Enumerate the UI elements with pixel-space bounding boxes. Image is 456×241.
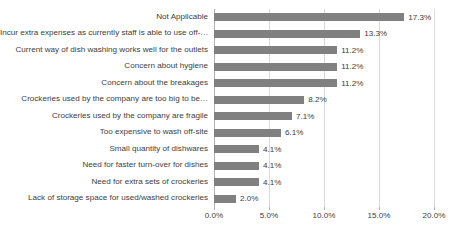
value-tick-label: 10.0% <box>313 211 336 220</box>
bar[interactable] <box>214 129 281 137</box>
bar[interactable] <box>214 145 259 153</box>
value-tick-mark <box>214 207 215 210</box>
bar-row[interactable]: 11.2% <box>214 75 434 92</box>
bar-data-label: 2.0% <box>240 194 258 203</box>
bar[interactable] <box>214 178 259 186</box>
bar-series: 17.3%13.3%11.2%11.2%11.2%8.2%7.1%6.1%4.1… <box>214 9 434 207</box>
category-label: Crockeries used by the company are fragi… <box>52 112 208 121</box>
bar-data-label: 4.1% <box>263 161 281 170</box>
value-tick-mark <box>379 207 380 210</box>
bar-chart: Not ApplicableIncur extra expenses as cu… <box>0 0 456 241</box>
bar-data-label: 11.2% <box>341 62 363 71</box>
bar[interactable] <box>214 63 337 71</box>
bar[interactable] <box>214 112 292 120</box>
bar-data-label: 11.2% <box>341 46 363 55</box>
category-label: Small quantity of dishwares <box>109 145 208 154</box>
value-tick-mark <box>434 207 435 210</box>
bar-data-label: 13.3% <box>364 29 387 38</box>
category-tick: Concern about hygiene <box>0 59 211 76</box>
category-tick: Small quantity of dishwares <box>0 141 211 158</box>
value-tick-label: 15.0% <box>368 211 391 220</box>
bar-row[interactable]: 13.3% <box>214 26 434 43</box>
bar[interactable] <box>214 162 259 170</box>
bar[interactable] <box>214 195 236 203</box>
category-tick: Current way of dish washing works well f… <box>0 42 211 59</box>
bar-row[interactable]: 8.2% <box>214 92 434 109</box>
category-label: Concern about the breakages <box>101 79 208 88</box>
bar-data-label: 8.2% <box>308 95 326 104</box>
category-tick: Lack of storage space for used/washed cr… <box>0 191 211 208</box>
category-tick: Need for extra sets of crockeries <box>0 174 211 191</box>
value-tick-mark <box>324 207 325 210</box>
category-tick: Too expensive to wash off-site <box>0 125 211 142</box>
category-label: Current way of dish washing works well f… <box>15 46 208 55</box>
gridline <box>434 9 435 207</box>
bar-row[interactable]: 6.1% <box>214 125 434 142</box>
bar-row[interactable]: 17.3% <box>214 9 434 26</box>
bar-row[interactable]: 2.0% <box>214 191 434 208</box>
bar[interactable] <box>214 96 304 104</box>
category-label: Not Applicable <box>156 13 208 22</box>
bar-row[interactable]: 11.2% <box>214 42 434 59</box>
bar-data-label: 4.1% <box>263 145 281 154</box>
bar-row[interactable]: 11.2% <box>214 59 434 76</box>
bar[interactable] <box>214 13 404 21</box>
category-tick: Incur extra expenses as currently staff … <box>0 26 211 43</box>
category-label: Need for faster turn-over for dishes <box>82 161 208 170</box>
value-tick-label: 0.0% <box>205 211 223 220</box>
bar[interactable] <box>214 46 337 54</box>
value-tick-label: 5.0% <box>260 211 278 220</box>
category-tick: Crockeries used by the company are too b… <box>0 92 211 109</box>
bar-data-label: 11.2% <box>341 79 363 88</box>
bar-row[interactable]: 4.1% <box>214 141 434 158</box>
bar-data-label: 7.1% <box>296 112 314 121</box>
category-label: Incur extra expenses as currently staff … <box>0 29 208 38</box>
category-label: Too expensive to wash off-site <box>100 128 208 137</box>
category-label: Need for extra sets of crockeries <box>91 178 208 187</box>
bar-row[interactable]: 7.1% <box>214 108 434 125</box>
category-tick: Concern about the breakages <box>0 75 211 92</box>
category-label: Concern about hygiene <box>124 62 208 71</box>
bar-data-label: 4.1% <box>263 178 281 187</box>
bar-data-label: 6.1% <box>285 128 303 137</box>
category-axis: Not ApplicableIncur extra expenses as cu… <box>0 9 211 207</box>
bar-row[interactable]: 4.1% <box>214 158 434 175</box>
bar-data-label: 17.3% <box>408 13 431 22</box>
bar-row[interactable]: 4.1% <box>214 174 434 191</box>
value-tick-mark <box>269 207 270 210</box>
category-tick: Crockeries used by the company are fragi… <box>0 108 211 125</box>
bar[interactable] <box>214 79 337 87</box>
bar[interactable] <box>214 30 360 38</box>
value-axis: 0.0%5.0%10.0%15.0%20.0% <box>214 207 434 227</box>
category-tick: Need for faster turn-over for dishes <box>0 158 211 175</box>
category-label: Lack of storage space for used/washed cr… <box>28 194 208 203</box>
category-label: Crockeries used by the company are too b… <box>21 95 208 104</box>
plot-area: 17.3%13.3%11.2%11.2%11.2%8.2%7.1%6.1%4.1… <box>214 9 434 207</box>
value-tick-label: 20.0% <box>423 211 446 220</box>
category-tick: Not Applicable <box>0 9 211 26</box>
